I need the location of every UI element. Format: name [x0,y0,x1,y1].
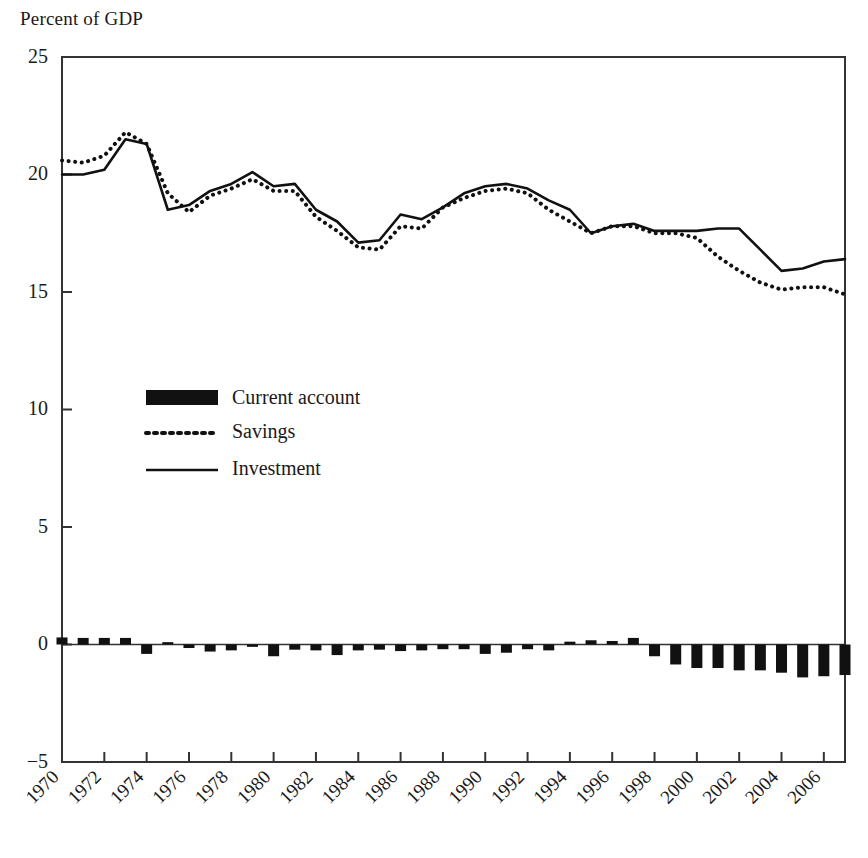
bar-1999 [670,645,681,665]
plot-frame [62,57,845,762]
bar-1989 [459,645,470,650]
bar-2007 [839,645,850,676]
bar-2004 [776,645,787,673]
legend-label-savings: Savings [232,420,296,443]
bar-1993 [543,645,554,651]
y-tick-label-10: 10 [28,397,48,419]
bar-1986 [395,645,406,652]
chart-figure: Percent of GDP −50510152025 197019721974… [0,0,868,858]
x-tick-label-1972: 1972 [63,766,105,808]
bar-1995 [586,640,597,644]
bar-1990 [480,645,491,654]
bar-1996 [607,641,618,645]
x-tick-label-1982: 1982 [275,766,317,808]
x-tick-label-1990: 1990 [444,766,486,808]
bar-1971 [78,638,89,645]
savings-investment-current-account-chart: −50510152025 197019721974197619781980198… [0,0,868,858]
y-axis-ticks: −50510152025 [27,45,72,772]
bar-1987 [416,645,427,651]
x-tick-label-2000: 2000 [656,766,698,808]
chart-legend: Current account Savings Investment [146,386,361,479]
y-tick-label-5: 5 [38,515,48,537]
bar-2006 [818,645,829,677]
bar-1977 [205,645,216,652]
bar-1997 [628,638,639,645]
bar-1991 [501,645,512,653]
bar-1970 [56,637,67,644]
bar-1994 [564,642,575,645]
y-tick-label-25: 25 [28,45,48,67]
current-account-bars [56,637,850,677]
bar-1981 [289,645,300,650]
bar-1982 [310,645,321,651]
y-tick-label-0: 0 [38,632,48,654]
x-tick-label-1984: 1984 [317,766,359,808]
axis-title: Percent of GDP [20,8,143,30]
bar-1988 [437,645,448,650]
x-tick-label-1976: 1976 [148,766,190,808]
bar-1983 [332,645,343,656]
bar-1992 [522,645,533,650]
bar-1984 [353,645,364,651]
y-tick-label-15: 15 [28,280,48,302]
legend-swatch-current-account [146,390,218,405]
y-tick-label-20: 20 [28,162,48,184]
x-tick-label-1974: 1974 [106,766,148,808]
bar-1985 [374,645,385,650]
bar-2001 [713,645,724,669]
x-tick-label-1978: 1978 [190,766,232,808]
x-tick-label-1992: 1992 [487,766,529,808]
bar-1975 [162,642,173,644]
bar-2005 [797,645,808,678]
legend-label-current-account: Current account [232,386,361,408]
x-tick-label-1994: 1994 [529,766,571,808]
bar-1976 [183,645,194,649]
x-tick-label-2002: 2002 [698,766,740,808]
bar-1978 [226,645,237,651]
series-line-investment [62,139,845,271]
bar-2003 [755,645,766,671]
bar-1974 [141,645,152,654]
bar-1980 [268,645,279,657]
x-tick-label-1980: 1980 [233,766,275,808]
bar-1979 [247,645,258,647]
x-tick-label-2006: 2006 [783,766,825,808]
bar-1973 [120,638,131,645]
x-tick-label-1986: 1986 [360,766,402,808]
x-tick-label-1988: 1988 [402,766,444,808]
legend-label-investment: Investment [232,457,321,479]
x-tick-label-1996: 1996 [571,766,613,808]
bar-2002 [734,645,745,671]
x-tick-label-2004: 2004 [741,766,783,808]
series-lines [62,132,845,294]
x-tick-label-1998: 1998 [614,766,656,808]
x-axis-ticks: 1970197219741976197819801982198419861988… [21,752,825,808]
bar-1998 [649,645,660,657]
x-tick-label-1970: 1970 [21,766,63,808]
bar-2000 [691,645,702,669]
series-line-savings [62,132,845,294]
bar-1972 [99,638,110,645]
